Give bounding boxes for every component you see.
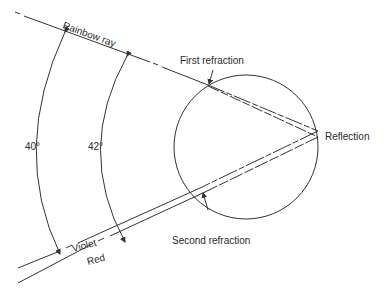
reflection-label: Reflection [325,131,369,142]
internal-rays-to-reflection [208,85,318,137]
second-refraction-pointer [203,193,208,210]
first-refraction-pointer [209,70,213,84]
angle-arc-42 [100,56,127,242]
violet-label: Violet [71,237,98,254]
red-label: Red [86,252,107,267]
first-refraction-label: First refraction [180,55,244,66]
angle-arc-40 [36,32,65,254]
second-refraction-label: Second refraction [172,235,250,246]
angle-40-label: 40° [25,141,40,152]
violet-ray-line [18,188,200,268]
angle-42-label: 42° [88,141,103,152]
rainbow-diagram: Rainbow ray First refraction Reflection … [0,0,387,297]
rainbow-ray-line [15,12,208,85]
internal-rays-from-reflection [200,131,318,192]
rainbow-ray-label: Rainbow ray [61,20,117,49]
